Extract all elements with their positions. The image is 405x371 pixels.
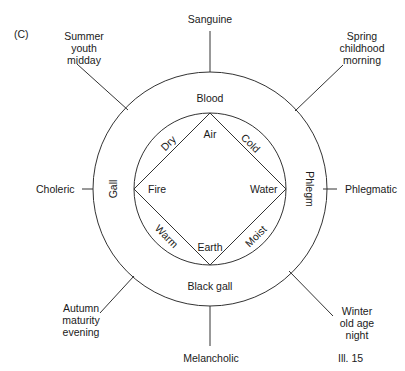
element-earth: Earth <box>190 241 230 253</box>
humour-phlegm: Phlegm <box>304 171 316 207</box>
season-winter: Winter old age night <box>330 305 384 341</box>
season-spring-line3: morning <box>330 54 394 66</box>
season-summer-line1: Summer <box>54 30 114 42</box>
season-spring-line1: Spring <box>330 30 394 42</box>
connector-top-left <box>77 64 128 110</box>
season-spring: Spring childhood morning <box>330 30 394 66</box>
humour-black-gall: Black gall <box>175 280 245 292</box>
season-autumn-line3: evening <box>54 326 108 338</box>
season-winter-line3: night <box>330 329 384 341</box>
element-water: Water <box>250 183 278 195</box>
season-winter-line1: Winter <box>330 305 384 317</box>
season-winter-line2: old age <box>330 317 384 329</box>
season-autumn-line2: maturity <box>54 314 108 326</box>
season-autumn-line1: Autumn <box>54 302 108 314</box>
season-summer-line3: midday <box>54 54 114 66</box>
temperament-choleric: Choleric <box>36 183 75 195</box>
season-summer-line2: youth <box>54 42 114 54</box>
temperament-phlegmatic: Phlegmatic <box>345 183 397 195</box>
season-autumn: Autumn maturity evening <box>54 302 108 338</box>
season-spring-line2: childhood <box>330 42 394 54</box>
temperament-sanguine: Sanguine <box>180 13 240 25</box>
humour-blood: Blood <box>180 92 240 104</box>
season-summer: Summer youth midday <box>54 30 114 66</box>
element-fire: Fire <box>148 183 166 195</box>
temperament-melancholic: Melancholic <box>176 352 246 364</box>
panel-label: (C) <box>14 28 29 40</box>
humour-gall: Gall <box>107 180 119 199</box>
connector-top-right <box>295 65 343 111</box>
outer-circle <box>93 72 327 306</box>
connector-bottom-right <box>289 271 333 316</box>
element-air: Air <box>195 128 225 140</box>
figure-caption: Ill. 15 <box>338 352 363 364</box>
